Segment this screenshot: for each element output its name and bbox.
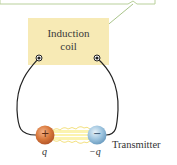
coil-label-line1: Induction: [28, 27, 109, 40]
minus-sign: −: [93, 128, 101, 139]
induction-coil-label: Induction coil: [28, 27, 109, 53]
transmitter-label: Transmitter: [112, 139, 161, 150]
charge-label-neg-q: −q: [89, 146, 101, 157]
terminal-left: [36, 55, 42, 61]
spark-gap: [52, 127, 90, 144]
right-wire: [97, 58, 118, 135]
coil-label-line2: coil: [28, 40, 109, 53]
charge-label-q: q: [42, 146, 47, 157]
left-wire: [17, 58, 39, 135]
terminal-right: [94, 55, 100, 61]
plus-sign: +: [41, 128, 49, 139]
